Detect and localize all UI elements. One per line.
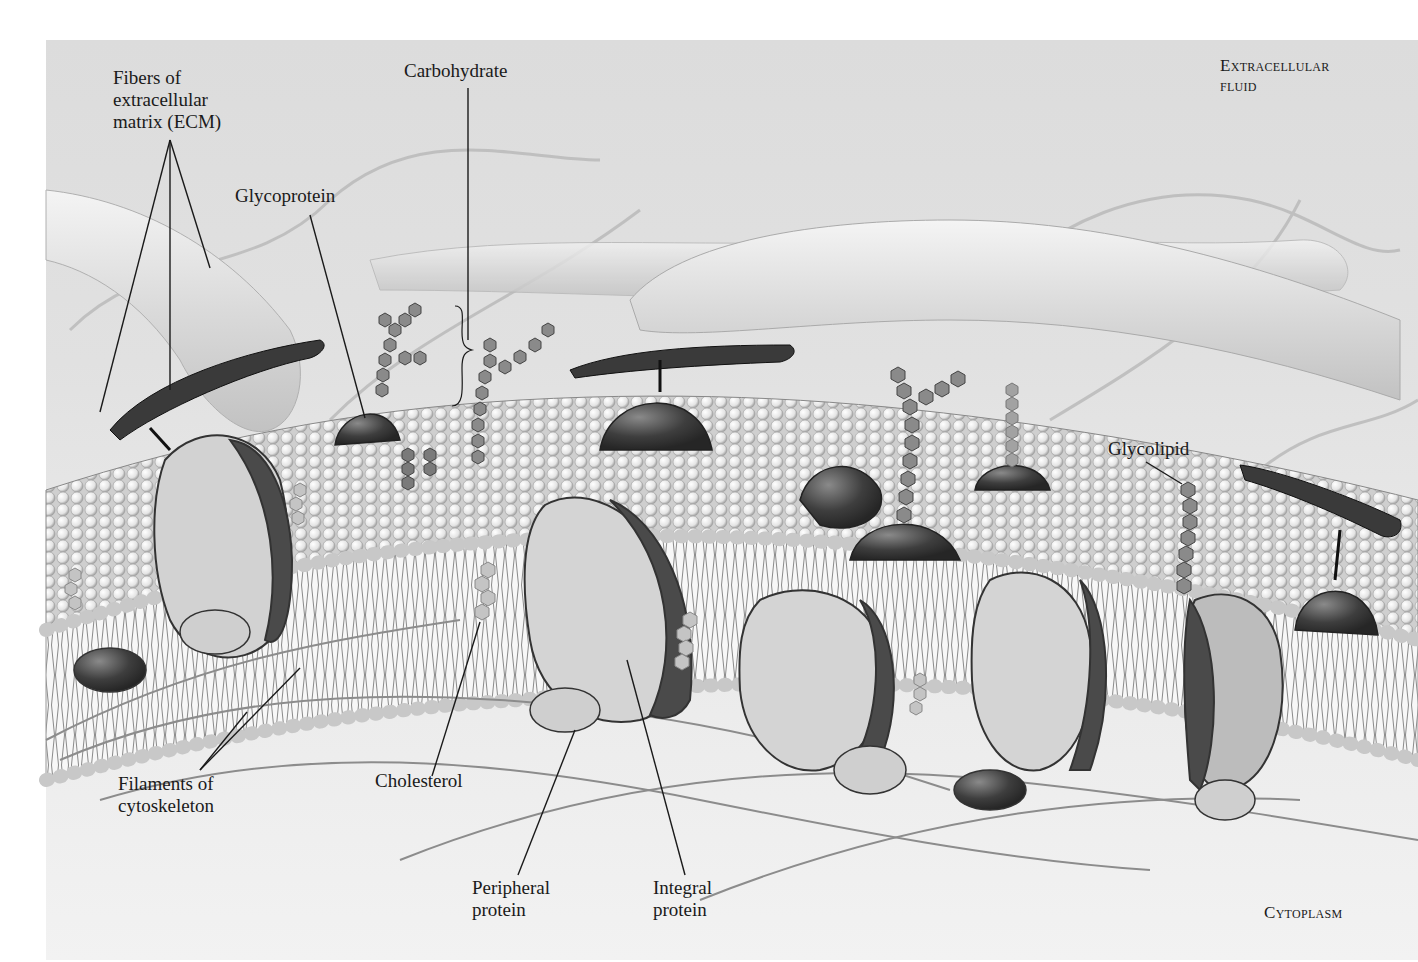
label-peripheral-protein: Peripheral protein	[472, 877, 550, 921]
label-cholesterol: Cholesterol	[375, 770, 463, 792]
region-extracellular-fluid: Extracellular fluid	[1220, 56, 1330, 96]
label-filaments-cytoskeleton: Filaments of cytoskeleton	[118, 773, 214, 817]
region-cytoplasm: Cytoplasm	[1264, 903, 1343, 923]
label-glycoprotein: Glycoprotein	[235, 185, 335, 207]
membrane-diagram: Fibers of extracellular matrix (ECM) Car…	[0, 0, 1418, 962]
membrane-illustration	[0, 0, 1418, 962]
ecm-collagen-fibers	[46, 190, 1400, 432]
label-integral-protein: Integral protein	[653, 877, 712, 921]
label-ecm-fibers: Fibers of extracellular matrix (ECM)	[113, 67, 221, 133]
label-carbohydrate: Carbohydrate	[404, 60, 507, 82]
label-glycolipid: Glycolipid	[1108, 438, 1189, 460]
